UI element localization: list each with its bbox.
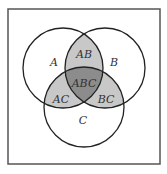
label-bc: BC (97, 93, 115, 106)
label-ac: AC (52, 93, 70, 106)
venn-diagram: A B C AB AC BC ABC (0, 0, 167, 174)
label-c: C (79, 114, 88, 127)
label-ab: AB (75, 48, 92, 61)
label-b: B (109, 56, 118, 69)
label-abc: ABC (71, 77, 97, 90)
label-a: A (49, 56, 58, 69)
